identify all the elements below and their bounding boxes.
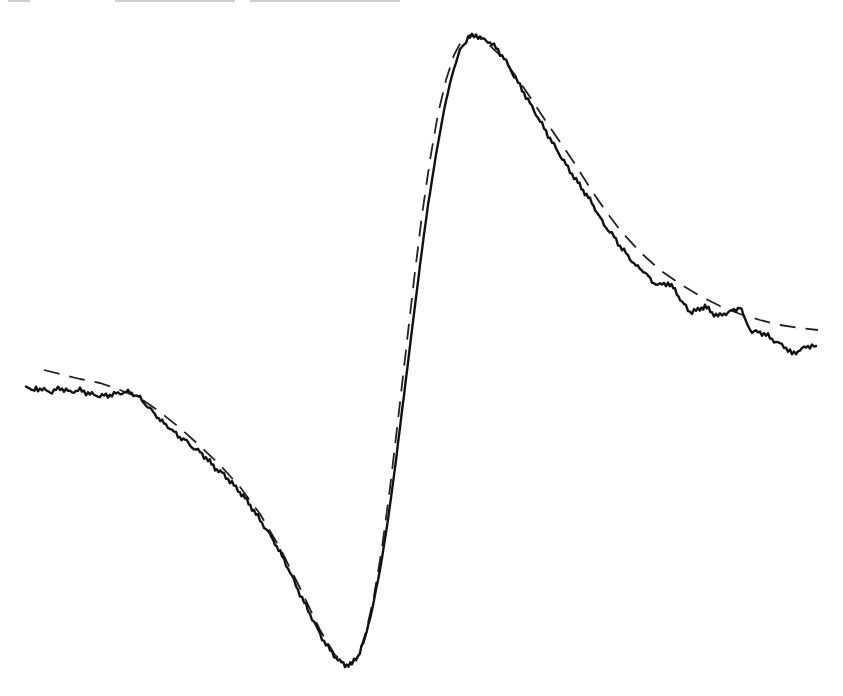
fit-curve-dashed (44, 35, 818, 666)
spectrum-chart (0, 0, 843, 696)
measured-curve-solid (26, 34, 816, 667)
plot-area (26, 34, 818, 667)
